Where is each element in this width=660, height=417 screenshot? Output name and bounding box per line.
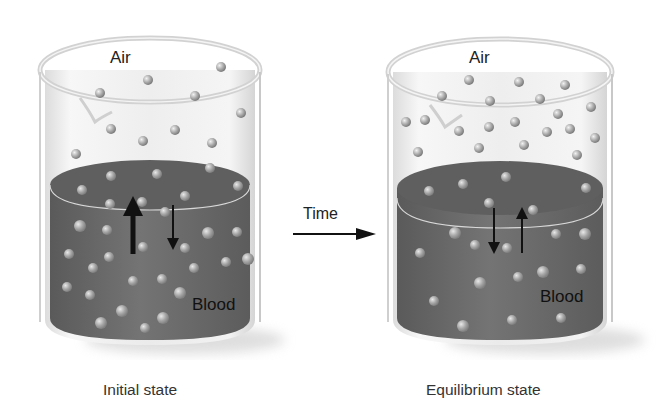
caption-initial-state: Initial state	[103, 381, 177, 399]
air-label-initial: Air	[110, 48, 131, 68]
time-arrow-icon	[293, 228, 376, 240]
beaker-initial-state	[40, 38, 285, 354]
blood-label-equilibrium: Blood	[540, 287, 583, 307]
blood-label-initial: Blood	[192, 295, 235, 315]
time-label: Time	[303, 205, 338, 223]
caption-equilibrium-state: Equilibrium state	[426, 381, 541, 399]
air-label-equilibrium: Air	[469, 48, 490, 68]
beaker-equilibrium-state	[388, 39, 645, 354]
